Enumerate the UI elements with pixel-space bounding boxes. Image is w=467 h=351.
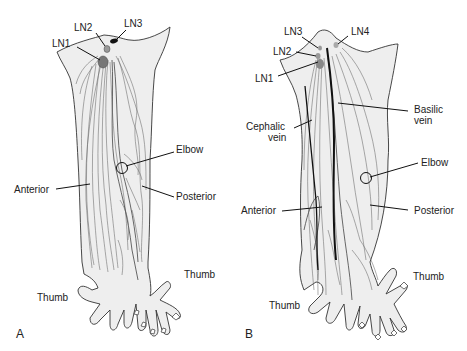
- panel-a-node-ln2: [104, 46, 110, 53]
- panel-b-label-ln1: LN1: [255, 73, 274, 84]
- panel-b-label-ln3: LN3: [284, 26, 303, 37]
- panel-b-label-thumb-right: Thumb: [413, 271, 445, 282]
- panel-b-node-ln2: [316, 53, 321, 59]
- panel-a-letter: A: [16, 327, 24, 341]
- panel-b-label-basilic-1: Basilic: [414, 104, 443, 115]
- panel-a-label-ln1: LN1: [52, 38, 71, 49]
- panel-b-label-basilic-2: vein: [414, 115, 432, 126]
- panel-b-label-cephalic-2: vein: [268, 132, 286, 143]
- panel-b-node-ln4: [334, 42, 339, 48]
- lymphatic-drainage-figure: LN1 LN2 LN3 Elbow Anterior Posterior Thu…: [0, 0, 467, 351]
- panel-b-node-ln1: [316, 59, 324, 69]
- panel-a-label-posterior: Posterior: [176, 191, 217, 202]
- panel-b-label-elbow: Elbow: [421, 157, 449, 168]
- panel-a-label-ln2: LN2: [74, 22, 93, 33]
- panel-a-label-thumb-right: Thumb: [184, 269, 216, 280]
- panel-a-label-ln3: LN3: [124, 18, 143, 29]
- panel-a-node-ln1: [98, 56, 108, 68]
- panel-b-label-anterior: Anterior: [241, 205, 277, 216]
- panel-b-label-cephalic-1: Cephalic: [246, 121, 285, 132]
- panel-a-label-thumb-left: Thumb: [37, 292, 69, 303]
- panel-a-label-anterior: Anterior: [14, 184, 50, 195]
- panel-b-arm-outline: [280, 30, 407, 336]
- panel-b-node-ln3: [318, 46, 322, 51]
- panel-b-label-ln2: LN2: [273, 46, 292, 57]
- panel-b: LN3 LN4 LN2 LN1 Cephalic vein Basilic ve…: [241, 26, 455, 341]
- panel-b-label-posterior: Posterior: [414, 205, 455, 216]
- panel-b-letter: B: [245, 327, 253, 341]
- panel-a: LN1 LN2 LN3 Elbow Anterior Posterior Thu…: [14, 18, 217, 341]
- panel-b-label-ln4: LN4: [351, 26, 370, 37]
- panel-a-label-elbow: Elbow: [176, 144, 204, 155]
- panel-b-label-thumb-left: Thumb: [269, 300, 301, 311]
